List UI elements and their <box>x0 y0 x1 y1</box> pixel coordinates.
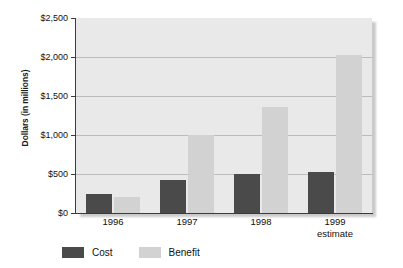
x-axis-tick-label-year: 1998 <box>250 216 271 227</box>
benefit-swatch <box>139 247 161 258</box>
y-axis-tick-label: $1,000 <box>2 130 68 140</box>
y-axis-tick-label: $0 <box>2 208 68 218</box>
bar-benefit-1996 <box>114 197 140 213</box>
y-axis-tick-labels: $0$500$1,000$1,500$2,000$2,500 <box>0 0 72 268</box>
y-axis-tickmark <box>71 213 76 214</box>
y-axis-tick-label: $1,500 <box>2 91 68 101</box>
bar-benefit-1998 <box>262 107 288 213</box>
bar-cost-1998 <box>234 174 260 213</box>
bar-chart: Dollars (in millions) $0$500$1,000$1,500… <box>0 0 403 268</box>
x-axis-tick-label: 1999estimate <box>317 216 353 239</box>
x-axis-tick-label-year: 1997 <box>176 216 197 227</box>
legend-item-cost: Cost <box>62 247 113 258</box>
y-axis-tick-label: $2,500 <box>2 13 68 23</box>
cost-swatch <box>62 247 84 258</box>
legend-item-benefit: Benefit <box>139 247 200 258</box>
x-axis-tick-label-year: 1996 <box>102 216 123 227</box>
x-axis-tick-label: 1998 <box>250 216 271 227</box>
y-axis-tick-label: $500 <box>2 169 68 179</box>
bar-benefit-1999 <box>336 55 362 213</box>
x-axis-line <box>75 213 373 214</box>
bar-cost-1996 <box>86 194 112 214</box>
bar-cost-1997 <box>160 180 186 213</box>
chart-legend: CostBenefit <box>62 244 226 260</box>
bars-layer <box>76 18 372 213</box>
bar-benefit-1997 <box>188 135 214 213</box>
bar-cost-1999 <box>308 172 334 213</box>
x-axis-tick-label: 1997 <box>176 216 197 227</box>
legend-label: Cost <box>92 247 113 258</box>
x-axis-tick-label-year: 1999 <box>324 216 345 227</box>
legend-label: Benefit <box>169 247 200 258</box>
x-axis-tick-label: 1996 <box>102 216 123 227</box>
x-axis-tick-sublabel: estimate <box>317 228 353 239</box>
y-axis-tick-label: $2,000 <box>2 52 68 62</box>
